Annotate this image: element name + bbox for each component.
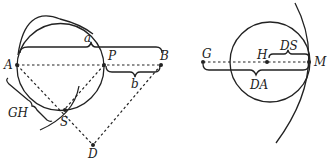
label-brace-da: DA: [249, 78, 269, 92]
label-a: A: [3, 58, 13, 72]
brace-b: [106, 66, 160, 77]
label-s: S: [60, 115, 68, 129]
label-p: P: [107, 49, 117, 63]
label-g: G: [202, 47, 212, 61]
label-h: H: [256, 48, 268, 62]
label-brace-gh: GH: [8, 106, 29, 120]
label-brace-ds: DS: [279, 39, 298, 53]
label-d: D: [87, 147, 98, 159]
point-s: [63, 108, 67, 112]
label-brace-a: a: [84, 31, 91, 45]
geometry-diagram: A P B S D a b GH G H M DS DA: [0, 0, 327, 159]
point-m: [307, 60, 311, 64]
diagram-canvas: A P B S D a b GH G H M DS DA: [0, 0, 327, 159]
point-b: [159, 63, 163, 67]
top-arc: [18, 16, 93, 55]
label-brace-b: b: [131, 77, 139, 91]
brace-da: [203, 64, 309, 75]
label-m: M: [313, 55, 327, 69]
point-a: [15, 63, 19, 67]
point-p: [102, 63, 106, 67]
label-b: B: [159, 49, 169, 63]
